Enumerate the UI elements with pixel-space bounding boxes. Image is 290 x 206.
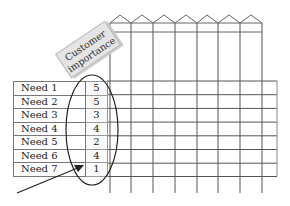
house-of-quality-diagram: Need 1 5 Need 2 5 Need 3 3 Need 4 4 Need… [0,0,290,206]
annotation-overlay [0,0,290,206]
arrow-icon [17,165,84,193]
highlight-ellipse [66,75,118,185]
